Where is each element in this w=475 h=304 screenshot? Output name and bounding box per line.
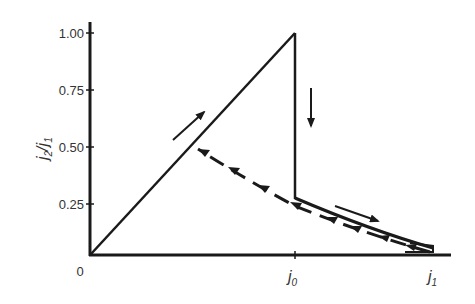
ytick-0.50: 0.50: [59, 140, 84, 155]
arrow-down-right-icon: [335, 206, 378, 221]
x-axis: [89, 251, 451, 259]
ytick-0.25: 0.25: [59, 197, 84, 212]
xtick-j1: j1: [426, 268, 437, 288]
series-forward-decay: [295, 198, 433, 248]
y-axis-label: j2/j1: [34, 137, 54, 162]
ytick-1.00: 1.00: [59, 26, 84, 41]
xtick-j0: j0: [286, 268, 298, 288]
y-axis: [86, 22, 94, 256]
chart: 1.00 0.75 0.50 0.25 0 j2/j1 j0 j1: [0, 0, 475, 304]
ytick-0.75: 0.75: [59, 83, 84, 98]
svg-text:j2/j1: j2/j1: [34, 137, 54, 162]
series-rise: [91, 33, 295, 254]
origin-label: 0: [76, 264, 83, 279]
return-arrowheads: [198, 149, 417, 251]
